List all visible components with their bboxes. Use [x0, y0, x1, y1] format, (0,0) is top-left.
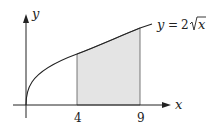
tick-label-9: 9: [137, 111, 145, 125]
curve-label-y: y: [156, 17, 165, 32]
shaded-region: [77, 28, 140, 105]
area-under-curve-diagram: y x 4 9 y = 2 x: [0, 0, 216, 129]
tick-label-4: 4: [74, 111, 82, 125]
x-axis-label: x: [175, 97, 183, 112]
curve-label-var: x: [198, 17, 206, 32]
curve-label-equals: =: [168, 18, 178, 32]
curve-label-coef: 2: [181, 18, 189, 32]
x-axis-arrow-icon: [162, 102, 171, 108]
y-axis-arrow-icon: [23, 14, 29, 23]
y-axis-label: y: [31, 6, 40, 21]
